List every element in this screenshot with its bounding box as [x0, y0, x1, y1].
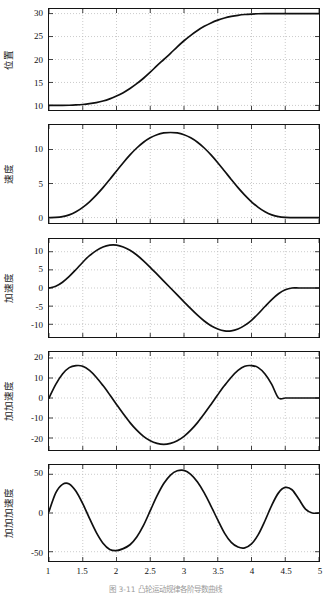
plot-canvas — [49, 465, 319, 561]
y-tick-label: -50 — [31, 548, 43, 558]
x-tick-label: 1 — [46, 566, 51, 576]
plot-area-5 — [48, 464, 320, 562]
subplot-4: 加加速度-20-1001020 — [0, 351, 331, 451]
y-tick-label: 5 — [39, 264, 44, 274]
y-axis-tick-labels-5: -50050 — [18, 464, 46, 562]
data-curve — [49, 132, 319, 217]
y-axis-tick-labels-2: 0510 — [18, 124, 46, 224]
y-axis-tick-labels-1: 1015202530 — [18, 8, 46, 111]
y-axis-tick-labels-3: -10-50510 — [18, 238, 46, 338]
x-tick-label: 2.5 — [144, 566, 155, 576]
y-tick-label: -20 — [31, 434, 43, 444]
y-tick-label: 20 — [34, 352, 43, 362]
subplot-1: 位置1015202530 — [0, 8, 331, 111]
x-tick-label: 5 — [318, 566, 323, 576]
y-axis-tick-labels-4: -20-1001020 — [18, 351, 46, 451]
y-axis-label-2: 速度 — [0, 124, 18, 224]
y-tick-label: -10 — [31, 413, 43, 423]
y-axis-label-text: 加加加速度 — [4, 488, 14, 538]
y-tick-label: 10 — [34, 373, 43, 383]
y-tick-label: 15 — [34, 78, 43, 88]
x-tick-label: 1.5 — [76, 566, 87, 576]
subplot-3: 加速度-10-50510 — [0, 238, 331, 338]
data-curve — [49, 365, 319, 444]
y-axis-label-text: 位置 — [4, 50, 14, 70]
y-axis-label-4: 加加速度 — [0, 351, 18, 451]
y-tick-label: -5 — [36, 302, 44, 312]
y-axis-label-text: 加速度 — [4, 273, 14, 303]
y-tick-label: 20 — [34, 55, 43, 65]
y-tick-label: 25 — [34, 31, 43, 41]
y-tick-label: 0 — [39, 393, 44, 403]
y-tick-label: 10 — [34, 144, 43, 154]
y-axis-label-text: 加加速度 — [4, 381, 14, 421]
plot-canvas — [49, 352, 319, 450]
y-tick-label: 50 — [34, 468, 43, 478]
y-tick-label: 10 — [34, 246, 43, 256]
plot-area-4 — [48, 351, 320, 451]
plot-canvas — [49, 125, 319, 223]
y-tick-label: -10 — [31, 320, 43, 330]
y-axis-label-3: 加速度 — [0, 238, 18, 338]
figure-motion-profile-derivatives: 位置1015202530速度0510加速度-10-50510加加速度-20-10… — [0, 0, 331, 596]
figure-caption: 图 3-11 凸轮运动规律各阶导数曲线 — [0, 583, 331, 594]
x-tick-label: 3.5 — [212, 566, 223, 576]
y-tick-label: 0 — [39, 508, 44, 518]
y-tick-label: 30 — [34, 8, 43, 18]
y-axis-label-5: 加加加速度 — [0, 464, 18, 562]
x-tick-label: 3 — [182, 566, 187, 576]
x-tick-label: 2 — [114, 566, 119, 576]
x-axis-tick-labels: 11.522.533.544.55 — [48, 566, 320, 580]
y-tick-label: 0 — [39, 283, 44, 293]
plot-canvas — [49, 9, 319, 110]
y-tick-label: 0 — [39, 213, 44, 223]
x-tick-label: 4.5 — [280, 566, 291, 576]
plot-area-1 — [48, 8, 320, 111]
y-axis-label-text: 速度 — [4, 164, 14, 184]
y-tick-label: 5 — [39, 179, 44, 189]
subplot-5: 加加加速度-50050 — [0, 464, 331, 562]
x-tick-label: 4 — [250, 566, 255, 576]
y-tick-label: 10 — [34, 101, 43, 111]
subplot-2: 速度0510 — [0, 124, 331, 224]
plot-canvas — [49, 239, 319, 337]
plot-area-3 — [48, 238, 320, 338]
plot-area-2 — [48, 124, 320, 224]
y-axis-label-1: 位置 — [0, 8, 18, 111]
